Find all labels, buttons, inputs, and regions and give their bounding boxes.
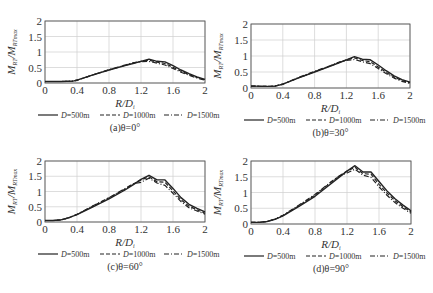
legend: D=500mD=1000mD=1500m — [244, 252, 426, 261]
y-axis-label: MRT/MRTmax — [211, 169, 224, 216]
series-line-D-1500m — [251, 169, 411, 222]
y-tick-label: 2 — [243, 155, 249, 167]
series-line-D-500m — [251, 166, 411, 223]
panel-caption: (d)θ=90° — [313, 263, 349, 275]
x-axis-label: R/Di — [320, 238, 341, 251]
legend-label: D=500m — [266, 252, 296, 261]
y-tick-label: 1.5 — [234, 171, 248, 183]
y-tick-label: 1 — [243, 187, 249, 199]
legend-label: D=1500m — [392, 252, 426, 261]
x-tick-label: 1.6 — [372, 225, 386, 237]
x-tick-label: 2 — [408, 225, 414, 237]
x-tick-label: 0.4 — [276, 225, 290, 237]
y-tick-label: 0.5 — [234, 202, 248, 214]
x-tick-label: 0.8 — [308, 225, 322, 237]
y-tick-label: 0 — [243, 218, 249, 230]
legend-label: D=1000m — [328, 252, 362, 261]
x-tick-label: 1.2 — [340, 225, 354, 237]
x-tick-label: 0 — [248, 225, 254, 237]
